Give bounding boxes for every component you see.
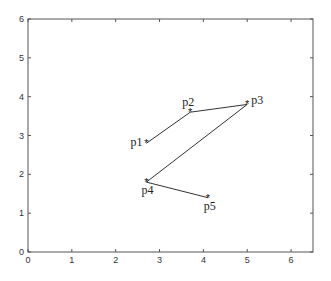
y-tick-label: 0 bbox=[19, 247, 24, 257]
y-tick-label: 3 bbox=[19, 131, 24, 141]
y-tick-label: 4 bbox=[19, 92, 24, 102]
point-label: p5 bbox=[204, 199, 216, 213]
data-point: * bbox=[144, 137, 149, 149]
y-tick-label: 6 bbox=[19, 14, 24, 24]
x-tick-label: 1 bbox=[69, 255, 74, 265]
data-point: * bbox=[245, 98, 250, 110]
point-label: p3 bbox=[251, 93, 263, 107]
x-tick-label: 2 bbox=[113, 255, 118, 265]
x-tick-label: 6 bbox=[289, 255, 294, 265]
y-tick-label: 5 bbox=[19, 53, 24, 63]
x-tick-label: 5 bbox=[245, 255, 250, 265]
point-label: p4 bbox=[141, 183, 153, 197]
point-label: p2 bbox=[182, 95, 194, 109]
x-tick-label: 4 bbox=[201, 255, 206, 265]
chart: 0123456 0123456 *p1*p2*p3*p4*p5 bbox=[0, 0, 331, 281]
plot-frame bbox=[28, 19, 313, 252]
point-label: p1 bbox=[130, 135, 142, 149]
y-tick-label: 1 bbox=[19, 208, 24, 218]
x-tick-label: 3 bbox=[157, 255, 162, 265]
y-tick-label: 2 bbox=[19, 169, 24, 179]
x-tick-label: 0 bbox=[25, 255, 30, 265]
